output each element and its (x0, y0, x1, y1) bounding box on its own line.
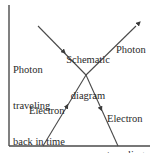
label-line: Photon (13, 64, 65, 76)
label-line: Electron (107, 113, 159, 125)
feynman-diagram: Schematic diagram Photon traveling back … (0, 0, 160, 153)
electron-back-in-time-label: Electron traveling back in time (107, 89, 159, 153)
photon-back-in-time-label: Photon traveling back in time (13, 40, 65, 153)
electron-label: Electron (29, 105, 65, 117)
label-line: traveling (107, 149, 159, 153)
diagram-title-line-1: Schematic (60, 54, 116, 66)
photon-label: Photon (116, 44, 146, 56)
label-line: back in time (13, 136, 65, 148)
